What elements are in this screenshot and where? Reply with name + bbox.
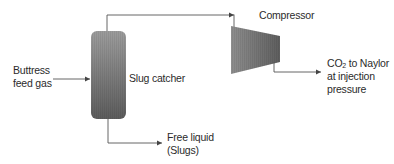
compressor-label: Compressor [259,9,314,22]
free-liquid-line1: Free liquid [167,131,214,144]
co2-product-label: CO2 to Naylor at injection pressure [327,57,389,96]
co2-product-line1: CO2 to Naylor [327,57,389,70]
free-liquid-stream [108,119,162,143]
feed-gas-label-line2: feed gas [13,77,52,90]
slug-catcher-vessel [91,31,126,119]
co2-outlet-stream [274,62,321,72]
feed-gas-label: Buttress feed gas [13,64,52,90]
co2-product-line2: at injection [327,70,389,83]
free-liquid-label: Free liquid (Slugs) [167,131,214,157]
gas-to-compressor-stream [107,15,234,31]
free-liquid-line2: (Slugs) [167,144,214,157]
slug-catcher-label: Slug catcher [129,72,185,85]
co2-product-line3: pressure [327,83,389,96]
compressor-shape [231,26,280,74]
feed-gas-label-line1: Buttress [13,64,52,77]
